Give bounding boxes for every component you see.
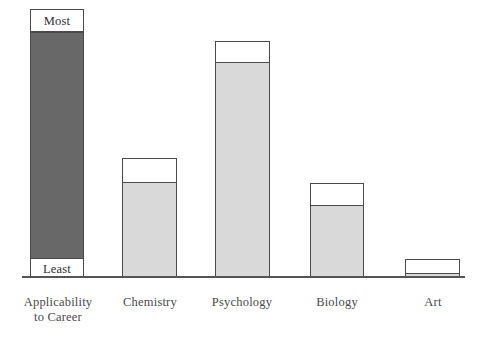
bar-chart: Most Least	[0, 0, 484, 339]
bar-biology[interactable]	[310, 183, 364, 277]
bar-segment-cap	[216, 42, 269, 62]
scale-label-least: Least	[31, 263, 83, 276]
scale-label-most: Most	[31, 15, 83, 28]
bar-segment-most-cap: Most	[31, 10, 83, 32]
x-axis-label-psychology: Psychology	[194, 295, 290, 310]
x-axis-label-biology: Biology	[289, 295, 385, 310]
bar-psychology[interactable]	[215, 41, 270, 277]
bar-segment-fill	[311, 205, 363, 276]
bar-segment-cap	[123, 159, 176, 182]
x-axis-label-art: Art	[385, 295, 481, 310]
bar-segment-fill-dark	[31, 32, 83, 258]
bar-segment-fill	[123, 182, 176, 276]
bar-art[interactable]	[405, 259, 460, 277]
bar-segment-cap	[406, 260, 459, 273]
bar-segment-cap	[311, 184, 363, 205]
bar-applicability-to-career[interactable]: Most Least	[30, 9, 84, 277]
x-axis-label-applicability-to-career: Applicability to Career	[10, 295, 106, 324]
x-axis-line	[22, 276, 465, 278]
bar-chemistry[interactable]	[122, 158, 177, 277]
bar-segment-least-cap: Least	[31, 258, 83, 276]
x-axis-label-chemistry: Chemistry	[102, 295, 198, 310]
bar-segment-fill	[216, 62, 269, 276]
plot-area: Most Least	[0, 0, 484, 279]
